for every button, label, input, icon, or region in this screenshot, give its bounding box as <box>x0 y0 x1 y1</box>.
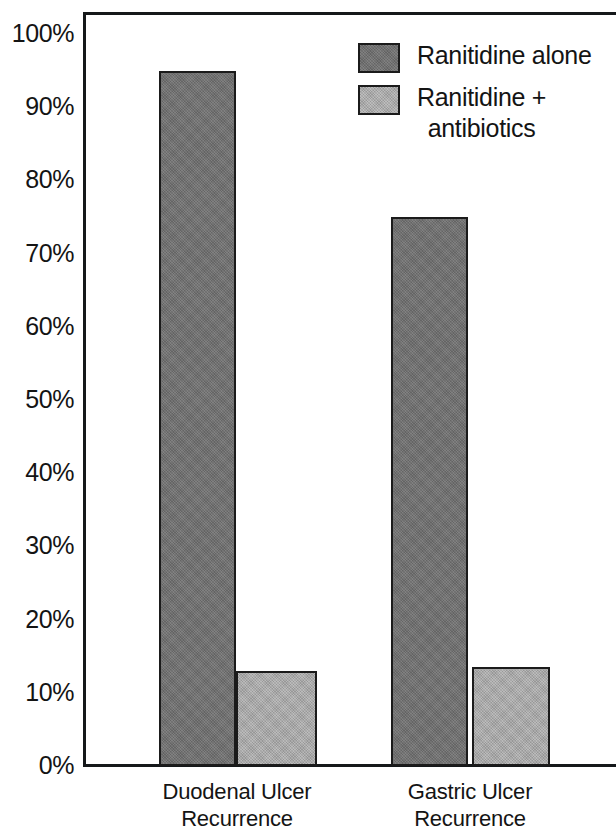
x-axis-label-line1: Gastric Ulcer <box>340 778 600 805</box>
bar-duodenal-ranitidine-antibiotics <box>236 671 317 766</box>
x-axis-label-line1: Duodenal Ulcer <box>107 778 367 805</box>
x-axis-label-gastric: Gastric Ulcer Recurrence <box>340 778 600 831</box>
y-tick-label: 60% <box>0 314 74 339</box>
legend-label-line1: Ranitidine + <box>417 83 546 111</box>
bar-gastric-ranitidine-alone <box>391 217 468 766</box>
y-tick-label: 20% <box>0 607 74 632</box>
legend-swatch-icon <box>358 43 400 73</box>
y-tick-label: 0% <box>0 753 74 778</box>
x-axis-label-line2: Recurrence <box>107 805 367 831</box>
y-tick-label: 80% <box>0 167 74 192</box>
y-tick-label: 100% <box>0 21 74 46</box>
legend-item-ranitidine-alone: Ranitidine alone <box>358 40 592 73</box>
x-axis-label-duodenal: Duodenal Ulcer Recurrence <box>107 778 367 831</box>
bar-chart-figure: 100% 90% 80% 70% 60% 50% 40% 30% 20% 10%… <box>0 0 616 831</box>
chart-legend: Ranitidine alone Ranitidine + antibiotic… <box>358 40 592 153</box>
legend-label-line1: Ranitidine alone <box>417 41 592 69</box>
x-axis-label-line2: Recurrence <box>340 805 600 831</box>
legend-label-line2: antibiotics <box>417 113 546 144</box>
legend-label: Ranitidine alone <box>417 40 592 71</box>
bar-duodenal-ranitidine-alone <box>159 71 236 766</box>
y-tick-label: 10% <box>0 680 74 705</box>
legend-item-ranitidine-antibiotics: Ranitidine + antibiotics <box>358 82 592 144</box>
y-tick-label: 40% <box>0 460 74 485</box>
legend-swatch-icon <box>358 85 400 115</box>
legend-label: Ranitidine + antibiotics <box>417 82 546 144</box>
y-tick-label: 90% <box>0 94 74 119</box>
y-tick-label: 50% <box>0 387 74 412</box>
bar-gastric-ranitidine-antibiotics <box>472 667 550 766</box>
y-tick-label: 70% <box>0 241 74 266</box>
y-tick-label: 30% <box>0 533 74 558</box>
